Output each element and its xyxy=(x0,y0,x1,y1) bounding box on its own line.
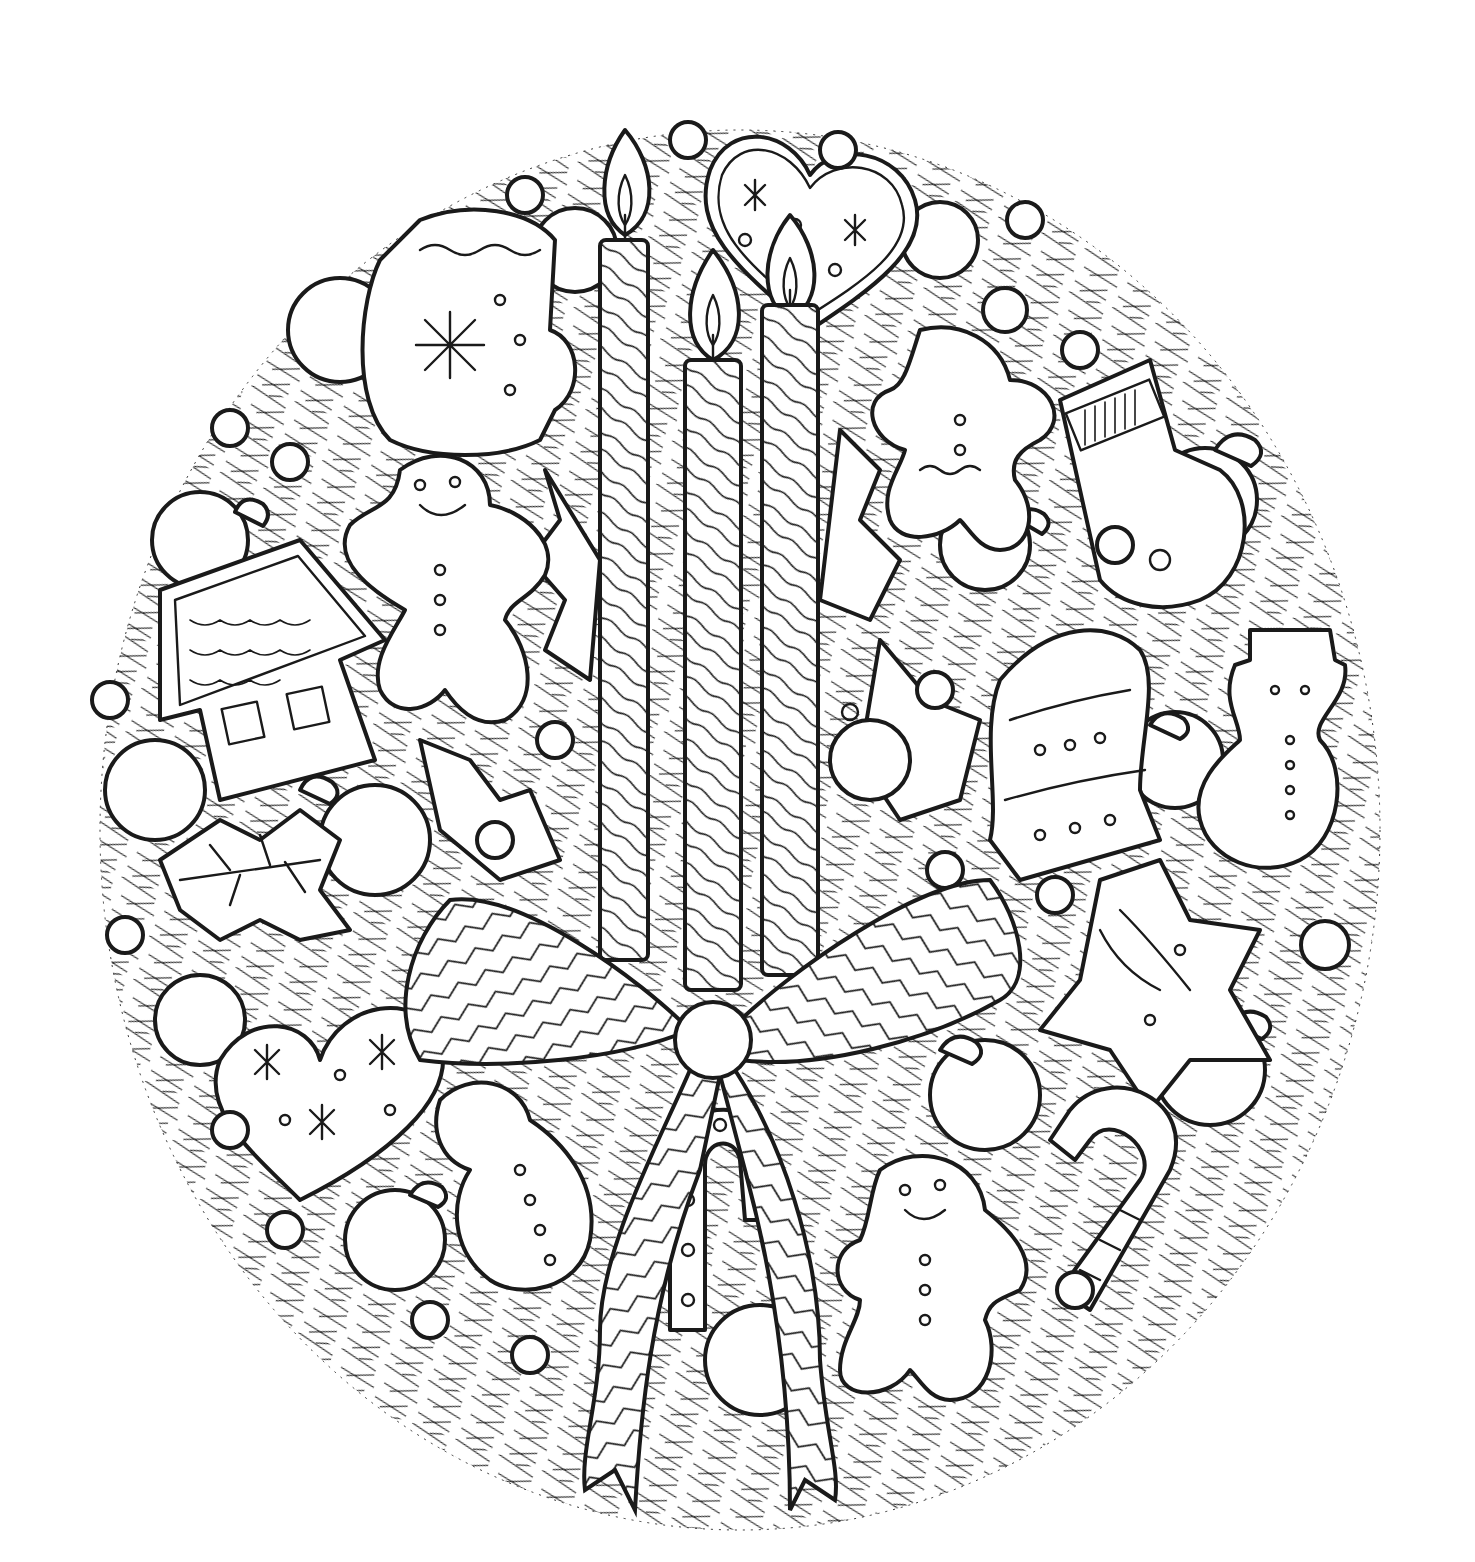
bell-cookie xyxy=(990,630,1160,880)
middle-candle xyxy=(685,250,741,990)
left-candle xyxy=(600,130,649,960)
right-candle xyxy=(762,215,818,975)
ornament xyxy=(930,1037,1040,1150)
ornament xyxy=(105,740,205,840)
bow-knot xyxy=(675,1002,751,1078)
mitten-cookie xyxy=(363,210,576,455)
coloring-page-canvas xyxy=(0,0,1475,1562)
candles xyxy=(600,130,818,990)
wreath-illustration xyxy=(0,0,1475,1562)
ornament xyxy=(983,288,1027,332)
